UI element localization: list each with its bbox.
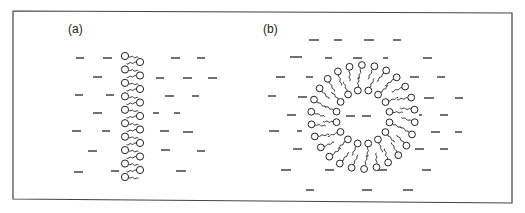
amphiphile-molecule [328, 129, 344, 137]
amphiphile-molecule [127, 126, 144, 133]
hydrophilic-head-icon [333, 119, 340, 126]
hydrophilic-head-icon [382, 99, 389, 106]
hydrophilic-head-icon [395, 152, 402, 159]
hydrophilic-head-icon [409, 131, 416, 138]
amphiphile-molecule [311, 96, 326, 107]
amphiphile-molecule [397, 135, 410, 149]
hydrophilic-head-icon [324, 75, 331, 82]
hydrophilic-head-icon [136, 139, 143, 146]
hydrophilic-head-icon [136, 58, 143, 65]
hydrophilic-head-icon [121, 66, 128, 73]
hydrophobic-tail [129, 70, 139, 72]
panel-a-lipid-bilayer: (a) [68, 22, 217, 181]
hydrophilic-head-icon [345, 91, 352, 98]
amphiphile-molecule [365, 79, 374, 94]
hydrophobic-tail [332, 92, 339, 100]
hydrophilic-head-icon [317, 144, 324, 151]
hydrophilic-head-icon [121, 79, 128, 86]
amphiphile-molecule [127, 139, 144, 146]
hydrophilic-head-icon [365, 87, 372, 94]
amphiphile-molecule [317, 142, 334, 151]
amphiphile-molecule [377, 67, 390, 81]
hydrophilic-head-icon [411, 119, 418, 126]
amphiphile-assembly-figure: (a) (b) [0, 0, 525, 213]
amphiphile-molecule [121, 93, 138, 100]
hydrophilic-head-icon [136, 85, 143, 92]
amphiphile-molecule [127, 58, 144, 65]
amphiphile-molecule [127, 72, 144, 79]
hydrophobic-tail [377, 73, 384, 81]
hydrophobic-tail [365, 155, 368, 166]
hydrophobic-tail [368, 69, 373, 79]
amphiphile-molecule [382, 97, 398, 105]
vesicle-bilayer [308, 62, 418, 173]
amphiphile-molecule [375, 136, 383, 152]
amphiphile-molecule [308, 108, 325, 116]
hydrophobic-tail [129, 150, 139, 152]
hydrophilic-head-icon [375, 91, 382, 98]
hydrophobic-tail [393, 112, 403, 113]
hydrophilic-head-icon [354, 140, 361, 147]
hydrophilic-head-icon [411, 106, 418, 113]
hydrophilic-head-icon [121, 52, 128, 59]
hydrophilic-head-icon [337, 99, 344, 106]
hydrophilic-head-icon [136, 112, 143, 119]
hydrophobic-tail [318, 134, 329, 136]
panel-b-label: (b) [263, 22, 278, 36]
hydrophilic-head-icon [121, 147, 128, 154]
hydrophobic-tail [324, 142, 334, 146]
hydrophobic-tail [127, 143, 137, 145]
panel-b-vesicle: (b) [263, 22, 463, 190]
amphiphile-molecule [127, 153, 144, 160]
hydrophobic-tail [352, 147, 356, 156]
hydrophobic-tail [400, 108, 411, 110]
hydrophilic-head-icon [403, 142, 410, 149]
amphiphile-molecule [386, 119, 401, 128]
amphiphile-molecule [121, 133, 138, 140]
amphiphile-molecule [359, 62, 366, 79]
amphiphile-molecule [375, 86, 388, 98]
hydrophilic-head-icon [136, 153, 143, 160]
amphiphile-molecule [392, 83, 409, 92]
hydrophobic-tail [353, 155, 358, 165]
hydrophobic-tail [127, 75, 137, 77]
hydrophobic-tail [127, 89, 137, 91]
amphiphile-molecule [334, 68, 341, 85]
hydrophilic-head-icon [371, 63, 378, 70]
amphiphile-molecule [121, 120, 138, 127]
hydrophobic-tail [379, 143, 383, 153]
hydrophilic-head-icon [333, 108, 340, 115]
amphiphile-molecule [386, 108, 403, 115]
hydrophilic-head-icon [385, 159, 392, 166]
amphiphile-molecule [121, 52, 138, 59]
hydrophobic-tail [328, 133, 338, 137]
hydrophilic-head-icon [393, 74, 400, 81]
hydrophobic-tail [342, 153, 349, 161]
hydrophobic-tail [332, 148, 341, 154]
amphiphile-molecule [324, 75, 334, 91]
hydrophilic-head-icon [308, 121, 315, 128]
hydrophobic-tail [389, 97, 399, 101]
hydrophilic-head-icon [311, 96, 318, 103]
hydrophobic-tail [315, 113, 325, 117]
amphiphile-molecule [316, 85, 329, 99]
hydrophilic-head-icon [382, 129, 389, 136]
amphiphile-molecule [326, 148, 341, 160]
hydrophobic-tail [329, 82, 335, 92]
hydrophilic-head-icon [326, 153, 333, 160]
amphiphile-molecule [336, 153, 349, 167]
hydrophobic-tail [129, 137, 139, 139]
hydrophobic-tail [127, 102, 137, 104]
hydrophilic-head-icon [308, 108, 315, 115]
hydrophilic-head-icon [121, 160, 128, 167]
hydrophilic-head-icon [121, 93, 128, 100]
hydrophobic-tail [129, 97, 139, 99]
amphiphile-molecule [391, 143, 401, 159]
hydrophilic-head-icon [386, 119, 393, 126]
hydrophobic-tail [315, 125, 326, 127]
amphiphile-molecule [127, 112, 144, 119]
hydrophilic-head-icon [121, 133, 128, 140]
amphiphile-molecule [361, 155, 368, 172]
amphiphile-molecule [368, 63, 378, 79]
hydrophobic-tail [127, 62, 137, 64]
